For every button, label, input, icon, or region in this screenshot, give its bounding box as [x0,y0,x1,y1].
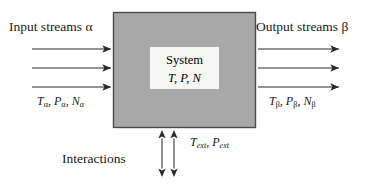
interaction-arrowhead-down-1 [158,168,165,177]
inlet-T-subscript: α [44,100,48,109]
outlet-T-subscript: β [276,100,280,109]
outlet-N-subscript: β [311,100,315,109]
outlet-variables-label: Tβ, Pβ, Nβ [269,95,316,109]
inlet-T: T [37,94,44,108]
outlet-T: T [269,94,276,108]
system-title: System [150,53,219,68]
output-streams-label: Output streams β [256,20,348,34]
interactions-label: Interactions [62,152,126,166]
inlet-N: N [72,94,80,108]
external-variables-label: Text, Pext [190,136,229,150]
interaction-arrowhead-up-1 [158,130,165,139]
external-P-subscript: ext [220,141,230,150]
inlet-N-subscript: α [80,100,84,109]
interaction-arrows [158,130,177,177]
interaction-arrowhead-up-2 [170,130,177,139]
outlet-stream-arrows [258,49,339,87]
outlet-P-subscript: β [293,100,297,109]
external-T: T [190,135,197,149]
system-diagram: System T, P, N Input streams α Output st… [0,0,382,184]
inlet-P-subscript: α [61,100,65,109]
interaction-arrowhead-down-2 [170,168,177,177]
input-streams-label: Input streams α [9,20,93,34]
system-state-box: System T, P, N [150,47,219,89]
system-state-variables: T, P, N [150,71,219,86]
external-P: P [212,135,219,149]
external-T-subscript: ext [197,141,207,150]
inlet-variables-label: Tα, Pα, Nα [37,95,84,109]
inlet-stream-arrows [32,49,111,87]
